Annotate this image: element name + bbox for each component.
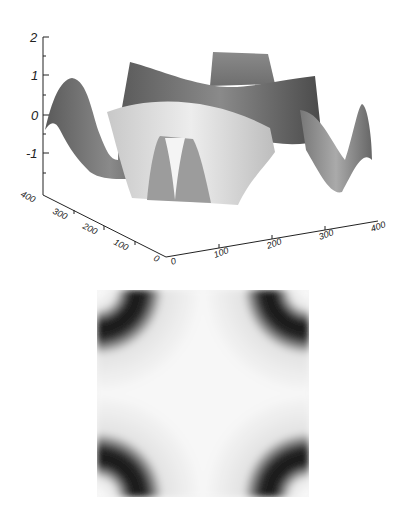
- y-label-400: 400: [19, 189, 37, 205]
- y-label-300: 300: [51, 206, 69, 222]
- x-label-200: 200: [264, 236, 282, 251]
- y-label-0: 0: [152, 253, 161, 264]
- heatmap-image: [97, 290, 309, 497]
- z-label-0: 0: [31, 108, 39, 123]
- x-label-0: 0: [169, 256, 177, 267]
- surface-plot: 2 1 0 -1 400 300 200 100 0 0 100 200 300…: [0, 0, 415, 285]
- z-label-2: 2: [29, 30, 38, 45]
- x-label-400: 400: [369, 219, 387, 234]
- y-label-100: 100: [112, 237, 130, 253]
- surface-back-peak: [210, 52, 275, 86]
- z-label-neg1: -1: [26, 146, 38, 161]
- x-label-300: 300: [317, 227, 335, 242]
- y-label-200: 200: [80, 220, 99, 236]
- x-label-100: 100: [212, 245, 230, 260]
- z-axis-ticks: [43, 37, 49, 173]
- surface-right-wave: [300, 104, 372, 192]
- z-label-1: 1: [31, 68, 38, 83]
